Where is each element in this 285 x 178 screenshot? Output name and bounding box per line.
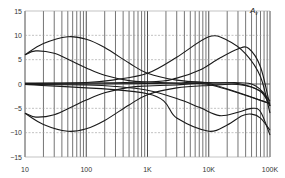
x-tick-label: 10 xyxy=(21,166,29,173)
frequency-response-chart: 151050−5−10−15 101001K10K100K Av xyxy=(0,0,285,178)
y-axis-tick-labels: 151050−5−10−15 xyxy=(10,8,22,161)
y-tick-label: 5 xyxy=(18,56,22,63)
x-tick-label: 10K xyxy=(203,166,216,173)
x-axis-tick-labels: 101001K10K100K xyxy=(21,166,278,173)
y-tick-label: 15 xyxy=(14,8,22,15)
y-tick-label: 10 xyxy=(14,32,22,39)
x-tick-label: 1K xyxy=(143,166,152,173)
x-tick-label: 100K xyxy=(262,166,279,173)
y-tick-label: −5 xyxy=(14,105,22,112)
y-tick-label: −15 xyxy=(10,154,22,161)
y-tick-label: −10 xyxy=(10,129,22,136)
y-tick-label: 0 xyxy=(18,81,22,88)
gain-annotation: Av xyxy=(249,6,258,16)
x-tick-label: 100 xyxy=(80,166,92,173)
